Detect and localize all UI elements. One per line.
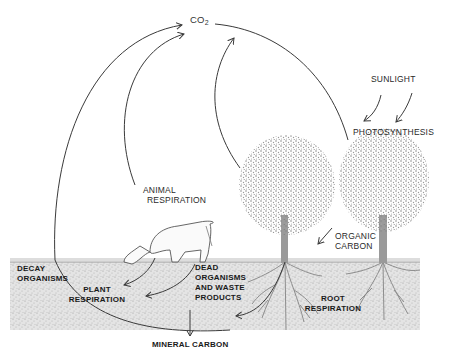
grass-strip <box>10 258 420 262</box>
plant-respiration-label: PLANT RESPIRATION <box>64 285 130 305</box>
mineral-carbon-label: MINERAL CARBON <box>152 340 228 350</box>
co2-text: CO <box>190 14 205 25</box>
arrow-tree-to-co2 <box>215 38 240 168</box>
organic-carbon-label: ORGANIC CARBON <box>335 231 376 251</box>
tree-2-canopy <box>339 128 429 232</box>
sunlight-label: SUNLIGHT <box>371 74 416 84</box>
arrow-sunlight-2 <box>396 93 412 122</box>
arrow-co2-to-photosynthesis <box>215 24 348 140</box>
cow-illustration <box>124 221 213 264</box>
decay-organisms-label: DECAY ORGANISMS <box>17 264 68 284</box>
arrow-animal-to-co2 <box>124 34 184 185</box>
animal-respiration-label: ANIMAL RESPIRATION <box>143 185 206 205</box>
dead-organisms-label: DEAD ORGANISMS AND WASTE PRODUCTS <box>195 263 246 303</box>
arrow-sunlight-1 <box>364 95 381 121</box>
arrow-decay-to-co2 <box>55 25 182 260</box>
co2-label: CO2 <box>190 15 209 28</box>
root-respiration-label: ROOT RESPIRATION <box>300 294 366 314</box>
photosynthesis-label: PHOTOSYNTHESIS <box>353 127 434 137</box>
carbon-cycle-diagram: CO2 SUNLIGHT PHOTOSYNTHESIS ANIMAL RESPI… <box>0 0 454 356</box>
tree-1-canopy <box>239 135 335 235</box>
co2-subscript: 2 <box>205 19 209 26</box>
arrow-organic-carbon <box>318 228 332 244</box>
